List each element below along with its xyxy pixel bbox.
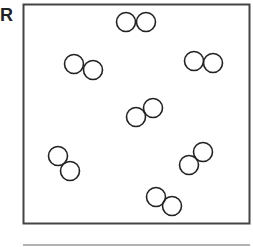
diatomic-molecule <box>147 188 182 216</box>
atom-circle <box>137 13 156 32</box>
diatomic-molecule <box>185 52 223 73</box>
molecules-group <box>49 13 223 216</box>
diatomic-molecule <box>117 13 156 32</box>
diatomic-molecule <box>49 147 80 181</box>
molecule-diagram <box>0 0 253 247</box>
atom-circle <box>117 13 136 32</box>
atom-circle <box>163 197 182 216</box>
atom-circle <box>185 52 204 71</box>
atom-circle <box>65 55 84 74</box>
diatomic-molecule <box>127 99 163 127</box>
atom-circle <box>127 108 146 127</box>
atom-circle <box>194 143 213 162</box>
diatomic-molecule <box>180 143 213 175</box>
diatomic-molecule <box>65 55 103 80</box>
atom-circle <box>204 54 223 73</box>
atom-circle <box>144 99 163 118</box>
atom-circle <box>61 162 80 181</box>
atom-circle <box>84 61 103 80</box>
container-box <box>24 5 250 224</box>
